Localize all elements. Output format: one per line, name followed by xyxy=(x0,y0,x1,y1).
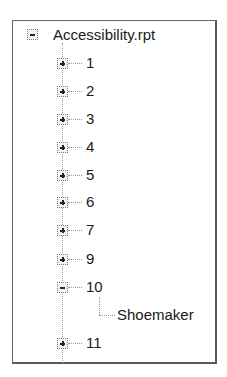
tree-connector-line xyxy=(68,287,82,288)
expand-toggle-icon[interactable] xyxy=(57,142,68,153)
tree-connector-line xyxy=(68,91,82,92)
tree-connector-line xyxy=(68,230,82,231)
tree-connector-line xyxy=(99,315,115,316)
tree-connector-line xyxy=(68,259,82,260)
tree-connector-line xyxy=(68,343,82,344)
tree-node-label[interactable]: 10 xyxy=(86,278,103,296)
tree-connector-line xyxy=(68,202,82,203)
expand-toggle-icon[interactable] xyxy=(57,338,68,349)
expand-toggle-icon[interactable] xyxy=(57,114,68,125)
collapse-toggle-icon[interactable] xyxy=(27,29,38,40)
tree-node-label[interactable]: 3 xyxy=(86,110,94,128)
expand-toggle-icon[interactable] xyxy=(57,225,68,236)
tree-root-label[interactable]: Accessibility.rpt xyxy=(53,26,155,44)
tree-node-label[interactable]: 11 xyxy=(86,334,102,352)
tree-node-label[interactable]: 4 xyxy=(86,138,94,156)
expand-toggle-icon[interactable] xyxy=(57,170,68,181)
tree-node-label[interactable]: 7 xyxy=(86,221,94,239)
expand-toggle-icon[interactable] xyxy=(57,197,68,208)
tree-view[interactable]: Accessibility.rpt 1 2 3 4 5 6 7 9 10 Sho… xyxy=(12,20,217,364)
expand-toggle-icon[interactable] xyxy=(57,58,68,69)
tree-node-label[interactable]: 2 xyxy=(86,82,94,100)
tree-leaf-label[interactable]: Shoemaker xyxy=(117,306,194,324)
collapse-toggle-icon[interactable] xyxy=(57,282,68,293)
tree-connector-line xyxy=(68,175,82,176)
tree-connector-line xyxy=(68,119,82,120)
tree-connector-line xyxy=(68,63,82,64)
tree-node-label[interactable]: 9 xyxy=(86,250,94,268)
expand-toggle-icon[interactable] xyxy=(57,254,68,265)
tree-node-label[interactable]: 1 xyxy=(86,54,94,72)
tree-node-label[interactable]: 5 xyxy=(86,166,94,184)
tree-connector-line xyxy=(99,297,100,315)
expand-toggle-icon[interactable] xyxy=(57,86,68,97)
tree-node-label[interactable]: 6 xyxy=(86,193,94,211)
tree-connector-line xyxy=(68,147,82,148)
